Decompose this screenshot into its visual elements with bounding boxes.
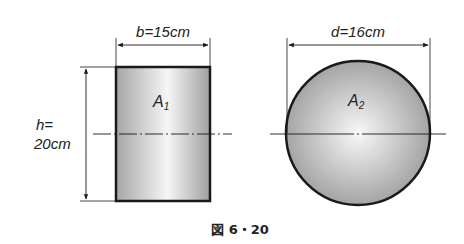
rectangle-section: b=15cm h= 20cm A1 (33, 23, 232, 201)
circle-section: d=16cm A2 (270, 23, 446, 205)
height-label-line1: h= (36, 116, 53, 133)
figure-caption: 図 6・20 (211, 222, 269, 237)
height-label-line2: 20cm (33, 135, 71, 152)
cross-section-diagram: b=15cm h= 20cm A1 d=16cm A2 図 6・20 (0, 0, 464, 244)
circle-shape (286, 61, 430, 205)
diameter-label: d=16cm (331, 23, 385, 40)
width-label: b=15cm (136, 23, 190, 40)
